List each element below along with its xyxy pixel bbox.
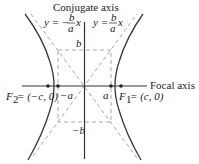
vertex-left-point	[56, 84, 60, 88]
asymptote-neg-frac-den: a	[68, 22, 74, 34]
f1-label: F	[118, 90, 126, 102]
hyperbola-diagram: Conjugate axis Focal axis y = − b a x y …	[0, 0, 199, 164]
hyperbola-right-branch	[115, 14, 143, 160]
neg-b-label: −b	[72, 124, 85, 136]
b-label: b	[76, 37, 82, 49]
focus-f1-point	[119, 84, 123, 88]
asymptote-pos-frac-den: a	[110, 22, 116, 34]
f2-coords: = (−c, 0)	[17, 90, 58, 103]
f2-label: F	[5, 90, 13, 102]
asymptote-pos-eq-prefix: y =	[92, 16, 108, 28]
focus-f2-point	[46, 84, 50, 88]
asymptote-pos-x: x	[117, 16, 123, 28]
a-label: a	[103, 89, 109, 101]
asymptote-neg-eq-prefix: y = −	[43, 16, 69, 28]
f1-coords: = (c, 0)	[130, 90, 164, 103]
diagram-canvas: Conjugate axis Focal axis y = − b a x y …	[0, 0, 199, 164]
vertex-right-point	[109, 84, 113, 88]
conjugate-axis-label: Conjugate axis	[53, 1, 119, 13]
asymptote-neg-x: x	[75, 16, 81, 28]
hyperbola-left-branch	[25, 14, 54, 160]
neg-a-label: −a	[60, 89, 73, 101]
